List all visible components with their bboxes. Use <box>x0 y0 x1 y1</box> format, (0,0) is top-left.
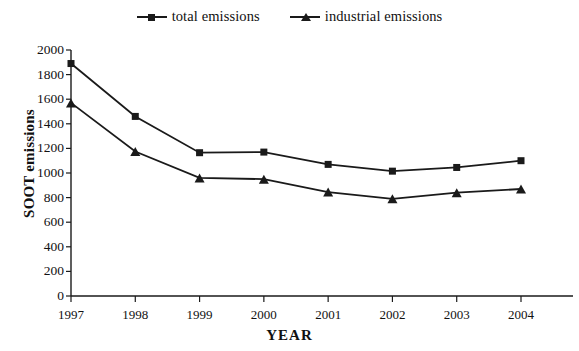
x-axis-tick-label: 2002 <box>362 308 422 321</box>
data-point-square <box>518 157 525 164</box>
data-series <box>68 60 525 175</box>
axis-lines <box>71 50 573 296</box>
y-axis-tick-label: 1400 <box>18 117 64 131</box>
data-point-square <box>389 168 396 175</box>
plot-area: 0200400600800100012001400160018002000 19… <box>0 0 579 351</box>
y-axis-tick-label: 600 <box>18 215 64 229</box>
y-axis-tick-label: 1200 <box>18 141 64 155</box>
x-axis-tick-label: 2004 <box>491 308 551 321</box>
data-point-square <box>260 149 267 156</box>
data-point-square <box>68 60 75 67</box>
x-axis-tick-label: 1997 <box>41 308 101 321</box>
x-axis-tick-label: 2000 <box>234 308 294 321</box>
data-series-layer <box>66 60 526 203</box>
y-axis-tick-label: 400 <box>18 240 64 254</box>
y-axis-tick-label: 800 <box>18 191 64 205</box>
y-axis-tick-label: 1000 <box>18 166 64 180</box>
data-point-square <box>196 149 203 156</box>
y-axis-tick-label: 1600 <box>18 92 64 106</box>
x-axis-tick-label: 1999 <box>170 308 230 321</box>
y-axis-tick-label: 200 <box>18 264 64 278</box>
soot-emissions-line-chart: total emissions industrial emissions SOO… <box>0 0 579 351</box>
y-axis-tick-label: 0 <box>18 289 64 303</box>
x-axis-tick-label: 2003 <box>427 308 487 321</box>
data-point-square <box>132 113 139 120</box>
y-axis-tick-label: 1800 <box>18 68 64 82</box>
plot-svg <box>0 0 579 351</box>
data-point-square <box>453 164 460 171</box>
y-axis-ticks <box>66 50 71 296</box>
x-axis-ticks <box>71 296 521 302</box>
y-axis-tick-label: 2000 <box>18 43 64 57</box>
data-point-square <box>325 161 332 168</box>
x-axis-tick-label: 1998 <box>105 308 165 321</box>
x-axis-tick-label: 2001 <box>298 308 358 321</box>
